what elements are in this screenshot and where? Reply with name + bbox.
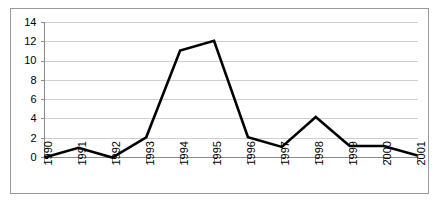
ytick-label-0: 0: [30, 151, 36, 163]
ytick-labels-group: 02468101214: [24, 16, 36, 163]
xtick-label-1994: 1994: [178, 141, 190, 165]
ytick-label-4: 4: [30, 112, 36, 124]
line-chart-plot: 02468101214 1990199119921993199419951996…: [0, 0, 440, 203]
xtick-label-1996: 1996: [245, 141, 257, 165]
ytick-label-14: 14: [24, 16, 36, 28]
ytick-label-12: 12: [24, 35, 36, 47]
ytick-label-2: 2: [30, 132, 36, 144]
xtick-label-1993: 1993: [144, 141, 156, 165]
xtick-label-1995: 1995: [211, 141, 223, 165]
chart-figure: 02468101214 1990199119921993199419951996…: [0, 0, 440, 203]
ytick-label-6: 6: [30, 93, 36, 105]
xtick-label-2001: 2001: [415, 141, 427, 165]
ytick-label-10: 10: [24, 54, 36, 66]
xtick-label-1990: 1990: [42, 141, 54, 165]
xtick-label-1998: 1998: [313, 141, 325, 165]
axis-group: [41, 23, 418, 162]
ytick-label-8: 8: [30, 74, 36, 86]
xtick-label-1991: 1991: [76, 141, 88, 165]
